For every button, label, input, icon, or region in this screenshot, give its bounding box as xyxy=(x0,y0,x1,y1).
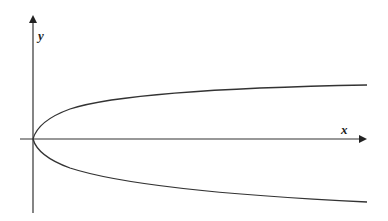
figure-canvas: y x xyxy=(0,0,388,221)
x-axis-label: x xyxy=(340,122,348,137)
y-axis-label: y xyxy=(36,28,44,43)
curve-lower-branch xyxy=(33,139,367,202)
curve-upper-branch xyxy=(33,85,367,139)
